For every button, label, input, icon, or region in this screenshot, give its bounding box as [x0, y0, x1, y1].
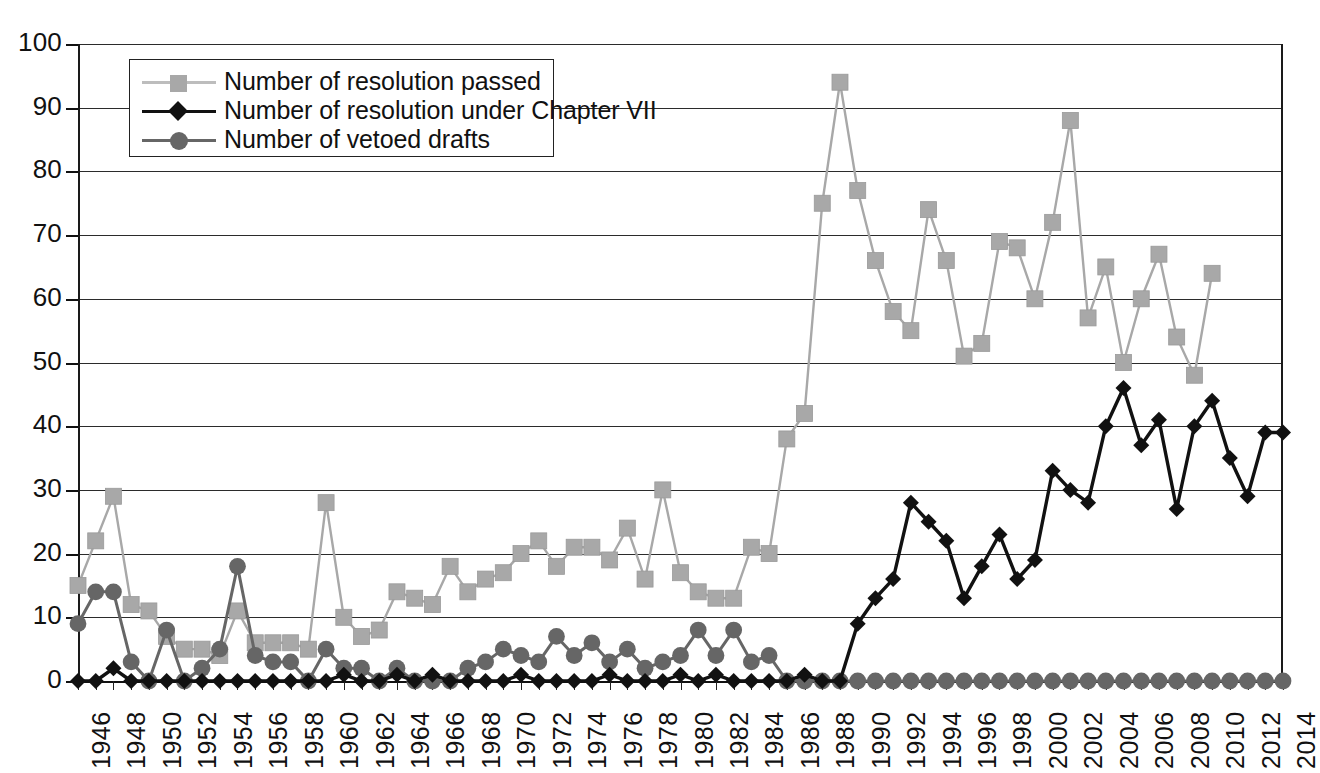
legend-swatch-diamond-icon	[142, 101, 216, 121]
x-tick-1996	[964, 681, 965, 690]
x-tick-1988	[822, 681, 823, 690]
x-tick-2014	[1283, 681, 1284, 690]
x-axis-label-1958: 1958	[300, 711, 329, 769]
y-axis-label-0: 0	[0, 664, 62, 695]
x-axis-label-1982: 1982	[725, 711, 754, 769]
x-tick-1948	[113, 681, 114, 690]
x-tick-2005	[1124, 681, 1125, 690]
x-tick-2004	[1106, 681, 1107, 690]
y-axis-label-40: 40	[0, 409, 62, 440]
x-axis-label-1946: 1946	[87, 711, 116, 769]
y-axis-label-10: 10	[0, 600, 62, 631]
x-tick-1986	[787, 681, 788, 690]
y-axis-label-20: 20	[0, 537, 62, 568]
x-tick-2010	[1212, 681, 1213, 690]
x-tick-1951	[167, 681, 168, 690]
legend-label-passed: Number of resolution passed	[216, 67, 541, 96]
x-tick-1955	[237, 681, 238, 690]
x-axis-label-2012: 2012	[1257, 711, 1286, 769]
x-axis-label-1990: 1990	[867, 711, 896, 769]
legend-item-vetoed: Number of vetoed drafts	[142, 125, 553, 154]
x-tick-1952	[184, 681, 185, 690]
x-tick-1962	[362, 681, 363, 690]
legend-label-vetoed: Number of vetoed drafts	[216, 125, 490, 154]
x-tick-1999	[1017, 681, 1018, 690]
x-tick-1973	[556, 681, 557, 690]
x-axis-label-1950: 1950	[158, 711, 187, 769]
x-tick-1993	[911, 681, 912, 690]
x-axis-label-1998: 1998	[1008, 711, 1037, 769]
x-tick-1954	[220, 681, 221, 690]
x-axis-label-1992: 1992	[902, 711, 931, 769]
x-tick-1998	[999, 681, 1000, 690]
x-axis-label-2006: 2006	[1150, 711, 1179, 769]
legend-item-chapter-vii: Number of resolution under Chapter VII	[142, 96, 553, 125]
x-tick-2011	[1230, 681, 1231, 690]
x-axis-label-1984: 1984	[760, 711, 789, 769]
x-axis-label-1970: 1970	[512, 711, 541, 769]
x-tick-1976	[610, 681, 611, 690]
x-tick-1963	[379, 681, 380, 690]
x-axis-label-1962: 1962	[371, 711, 400, 769]
x-axis-label-1964: 1964	[406, 711, 435, 769]
x-tick-2013	[1265, 681, 1266, 690]
y-axis-label-50: 50	[0, 346, 62, 377]
x-tick-1947	[96, 681, 97, 690]
x-axis-label-1994: 1994	[938, 711, 967, 769]
x-tick-2009	[1194, 681, 1195, 690]
x-tick-1969	[486, 681, 487, 690]
x-axis-label-1976: 1976	[619, 711, 648, 769]
legend-item-passed: Number of resolution passed	[142, 67, 553, 96]
x-tick-1967	[450, 681, 451, 690]
y-axis-label-100: 100	[0, 27, 62, 58]
x-axis-label-1952: 1952	[193, 711, 222, 769]
x-tick-1987	[805, 681, 806, 690]
x-tick-1979	[663, 681, 664, 690]
x-axis-label-1948: 1948	[122, 711, 151, 769]
y-axis-label-70: 70	[0, 218, 62, 249]
legend: Number of resolution passed Number of re…	[129, 59, 554, 157]
x-tick-2007	[1159, 681, 1160, 690]
x-tick-2000	[1035, 681, 1036, 690]
x-axis-label-1974: 1974	[583, 711, 612, 769]
y-axis-label-80: 80	[0, 154, 62, 185]
x-tick-1984	[751, 681, 752, 690]
x-tick-1957	[273, 681, 274, 690]
x-tick-1990	[858, 681, 859, 690]
x-axis-label-2000: 2000	[1044, 711, 1073, 769]
x-tick-1992	[893, 681, 894, 690]
x-tick-2003	[1088, 681, 1089, 690]
y-axis-label-60: 60	[0, 282, 62, 313]
x-axis-label-1956: 1956	[264, 711, 293, 769]
x-axis-label-2014: 2014	[1292, 711, 1320, 769]
x-tick-1950	[149, 681, 150, 690]
x-tick-2012	[1248, 681, 1249, 690]
y-axis-label-30: 30	[0, 473, 62, 504]
x-tick-1977	[627, 681, 628, 690]
x-tick-1971	[521, 681, 522, 690]
x-tick-1974	[574, 681, 575, 690]
x-axis-label-1988: 1988	[831, 711, 860, 769]
x-axis-label-2004: 2004	[1115, 711, 1144, 769]
x-tick-2001	[1053, 681, 1054, 690]
x-tick-1965	[415, 681, 416, 690]
legend-label-chapter-vii: Number of resolution under Chapter VII	[216, 96, 657, 125]
legend-swatch-square-icon	[142, 72, 216, 92]
x-axis-label-1986: 1986	[796, 711, 825, 769]
x-tick-2008	[1177, 681, 1178, 690]
x-tick-1985	[769, 681, 770, 690]
x-axis-label-1972: 1972	[548, 711, 577, 769]
x-tick-1972	[539, 681, 540, 690]
x-axis-label-2010: 2010	[1221, 711, 1250, 769]
x-tick-1953	[202, 681, 203, 690]
x-tick-1949	[131, 681, 132, 690]
x-tick-1994	[929, 681, 930, 690]
x-axis-label-1960: 1960	[335, 711, 364, 769]
x-tick-1960	[326, 681, 327, 690]
x-tick-1966	[432, 681, 433, 690]
x-tick-1961	[344, 681, 345, 690]
x-axis-label-1968: 1968	[477, 711, 506, 769]
x-tick-1980	[681, 681, 682, 690]
x-axis-label-1996: 1996	[973, 711, 1002, 769]
